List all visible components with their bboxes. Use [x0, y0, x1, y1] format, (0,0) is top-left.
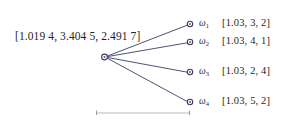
- leaf-vector-3: [1.03, 2, 4]: [222, 66, 270, 77]
- edge-root-to-leaf-4: [105, 57, 189, 103]
- leaf-node-2-center: [189, 41, 191, 43]
- edge-root-to-leaf-2: [105, 43, 189, 58]
- leaf-subscript-3: 3: [206, 70, 209, 77]
- leaf-symbol-3: ω: [199, 66, 206, 76]
- leaf-vector-4: [1.03, 5, 2]: [222, 96, 270, 107]
- tree-diagram-figure: [1.019 4, 3.404 5, 2.491 7] ω1 [1.03, 3,…: [0, 0, 289, 120]
- leaf-symbol-1: ω: [199, 18, 206, 28]
- root-node-center: [103, 56, 105, 58]
- leaf-label-1: ω1: [199, 19, 209, 29]
- leaf-vector-2: [1.03, 4, 1]: [222, 36, 270, 47]
- leaf-node-3-center: [189, 71, 191, 73]
- leaf-node-4-center: [189, 101, 191, 103]
- edge-root-to-leaf-3: [105, 57, 189, 73]
- leaf-label-2: ω2: [199, 37, 209, 47]
- axis-group: [96, 111, 190, 116]
- root-label: [1.019 4, 3.404 5, 2.491 7]: [15, 31, 140, 43]
- leaf-label-4: ω4: [199, 97, 209, 107]
- leaf-label-3: ω3: [199, 67, 209, 77]
- leaf-symbol-4: ω: [199, 96, 206, 106]
- leaf-subscript-2: 2: [206, 40, 209, 47]
- leaf-subscript-1: 1: [206, 22, 209, 29]
- leaf-node-1-center: [189, 23, 191, 25]
- leaf-subscript-4: 4: [206, 100, 209, 107]
- leaf-symbol-2: ω: [199, 36, 206, 46]
- leaf-vector-1: [1.03, 3, 2]: [222, 18, 270, 29]
